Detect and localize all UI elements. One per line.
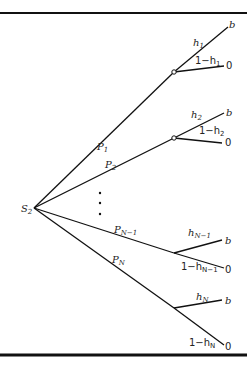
outcome-b-1: b	[229, 19, 235, 30]
h-label-1: h1	[193, 37, 204, 50]
outcome-0-n: 0	[225, 341, 231, 352]
root-label: S2	[21, 203, 33, 216]
branch-1: P1 h1 1−h1 b 0	[34, 19, 235, 208]
outcome-b-2: b	[226, 107, 232, 118]
outcome-0-2: 0	[225, 137, 231, 148]
outcome-b-n: b	[225, 295, 231, 306]
branch-n-minus-1: PN−1 hN−1 1−hN−1 b 0	[34, 208, 231, 275]
h-label-2: h2	[191, 109, 202, 122]
outcome-0-n-minus-1: 0	[225, 264, 231, 275]
h-label-n: hN	[196, 291, 209, 304]
not-h-label-2: 1−h2	[199, 125, 225, 138]
h-label-n-minus-1: hN−1	[188, 227, 211, 240]
outcome-b-n-minus-1: b	[225, 235, 231, 246]
ellipsis-dots	[99, 192, 101, 215]
not-h-label-1: 1−h1	[195, 55, 221, 68]
branch-2: P2 h2 1−h2 b 0	[34, 107, 232, 208]
chance-node-2	[172, 136, 176, 140]
prob-label-1: P1	[96, 141, 108, 154]
not-h-label-n: 1−hN	[189, 337, 215, 350]
outcome-0-1: 0	[226, 60, 232, 71]
not-h-label-n-minus-1: 1−hN−1	[181, 261, 218, 274]
probability-tree-diagram: S2 P1 h1 1−h1 b 0 P2 h2 1−h2 b 0 PN−1 hN…	[0, 0, 247, 365]
chance-node-1	[172, 70, 176, 74]
